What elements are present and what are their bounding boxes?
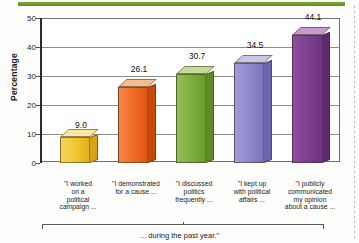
category-label-4-line-2: my opinion (279, 196, 341, 204)
y-tick-20: 20 (6, 101, 36, 110)
bar-face-1 (118, 87, 148, 163)
bracket-center-tick (183, 222, 184, 225)
category-label-0-line-0: "I worked (47, 180, 109, 188)
category-label-0: "I worked on a political campaign ... (47, 180, 109, 211)
category-label-2-line-2: frequently ... (163, 196, 225, 204)
y-axis-tick-labels: 50 40 30 20 10 0 (8, 14, 36, 162)
plot-region: Percentage 50 40 30 20 10 0 9.0 (0, 14, 359, 176)
category-labels: "I worked on a political campaign ... "I… (40, 180, 340, 216)
category-label-4-line-3: about a cause ... (279, 203, 341, 211)
category-label-3-line-2: affairs ... (221, 196, 283, 204)
category-label-4-line-0: "I publicly (279, 180, 341, 188)
y-tick-50: 50 (6, 14, 36, 23)
category-label-3-line-0: "I kept up (221, 180, 283, 188)
bar-0[interactable] (60, 137, 90, 163)
y-tick-10: 10 (6, 130, 36, 139)
y-tick-40: 40 (6, 43, 36, 52)
category-label-0-line-2: political (47, 196, 109, 204)
category-label-4-line-1: communicated (279, 188, 341, 196)
bar-1[interactable] (118, 87, 148, 163)
chart-caption: ... during the past year." (0, 231, 359, 240)
bar-value-label-3: 34.5 (232, 40, 278, 50)
bar-side-4 (322, 32, 330, 163)
bar-slot-1: 26.1 (106, 18, 166, 163)
bar-4[interactable] (292, 35, 322, 163)
category-label-2-line-1: politics (163, 188, 225, 196)
category-label-0-line-1: on a (47, 188, 109, 196)
bar-slot-4: 44.1 (280, 18, 340, 163)
chart-figure: Percentage 50 40 30 20 10 0 9.0 (0, 0, 359, 243)
category-label-3-line-1: with political (221, 188, 283, 196)
bar-face-4 (292, 35, 322, 163)
bar-face-0 (60, 137, 90, 163)
y-tick-0: 0 (6, 159, 36, 168)
category-label-3: "I kept up with political affairs ... (221, 180, 283, 203)
category-label-1: "I demonstrated for a cause ... (105, 180, 167, 196)
bar-side-1 (148, 84, 156, 163)
category-label-2: "I discussed politics frequently ... (163, 180, 225, 203)
y-tickmark-0 (36, 163, 40, 164)
bar-value-label-4: 44.1 (290, 12, 336, 22)
bar-slot-0: 9.0 (48, 18, 108, 163)
category-bracket (42, 224, 324, 229)
category-label-2-line-0: "I discussed (163, 180, 225, 188)
bar-value-label-2: 30.7 (174, 51, 220, 61)
bar-2[interactable] (176, 74, 206, 163)
category-label-0-line-3: campaign ... (47, 203, 109, 211)
bar-side-3 (264, 60, 272, 163)
y-tick-30: 30 (6, 72, 36, 81)
bar-3[interactable] (234, 63, 264, 163)
bar-slot-2: 30.7 (164, 18, 224, 163)
bar-side-0 (90, 134, 98, 163)
bar-value-label-1: 26.1 (116, 64, 162, 74)
bar-series: 9.0 26.1 30.7 (40, 18, 340, 163)
category-label-1-line-1: for a cause ... (105, 188, 167, 196)
bar-face-2 (176, 74, 206, 163)
bar-side-2 (206, 71, 214, 163)
bar-slot-3: 34.5 (222, 18, 282, 163)
category-label-1-line-0: "I demonstrated (105, 180, 167, 188)
category-label-4: "I publicly communicated my opinion abou… (279, 180, 341, 211)
bar-face-3 (234, 63, 264, 163)
top-green-rule (18, 2, 345, 6)
